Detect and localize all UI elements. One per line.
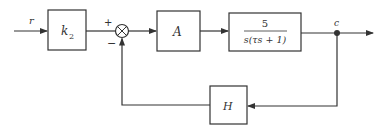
block-H: H: [210, 86, 247, 124]
block-A: A: [157, 11, 200, 51]
block-k2: k 2: [48, 10, 86, 50]
plant-numerator: 5: [262, 18, 268, 29]
block-plant: 5 s(τs + 1): [229, 13, 301, 51]
output-label: c: [334, 18, 339, 28]
summing-junction: + −: [104, 17, 129, 50]
minus-sign: −: [107, 37, 116, 50]
block-H-label: H: [222, 100, 233, 113]
block-diagram: r k 2 + − A 5 s(τs + 1) c H: [0, 0, 388, 133]
plant-denominator: s(τs + 1): [244, 34, 287, 45]
input-label: r: [29, 15, 35, 26]
plus-sign: +: [104, 17, 112, 28]
block-A-label: A: [172, 25, 182, 39]
block-k2-subscript: 2: [69, 32, 74, 41]
block-k2-label: k: [61, 24, 68, 38]
input-signal: r: [14, 15, 47, 31]
